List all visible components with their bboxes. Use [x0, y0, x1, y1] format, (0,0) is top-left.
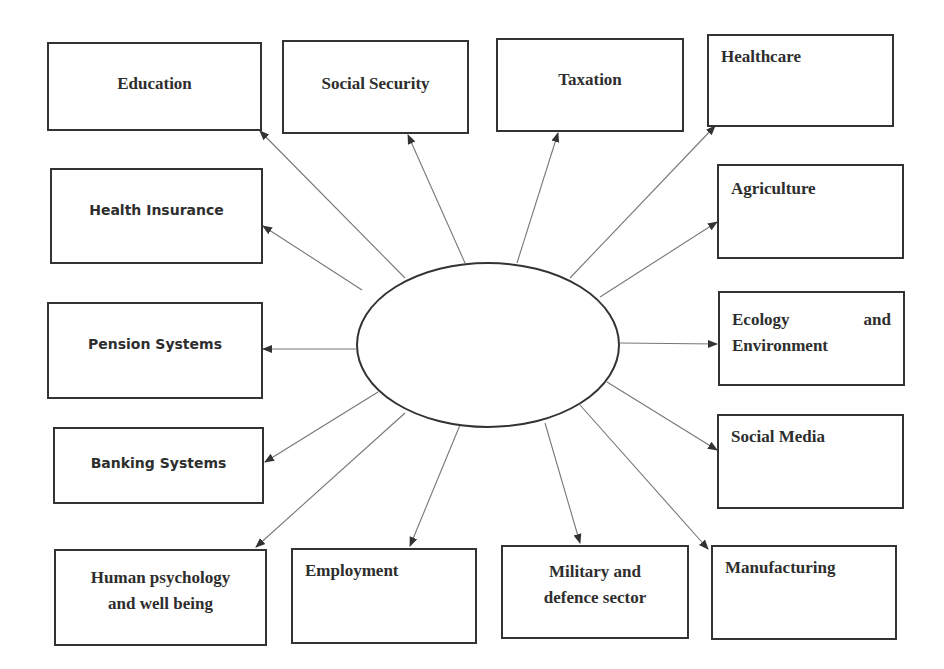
diagram-canvas: Education Social Security Taxation Healt… — [0, 0, 944, 669]
center-ellipse — [357, 263, 619, 427]
node-taxation: Taxation — [496, 38, 684, 132]
node-label-line1-left: Ecology — [732, 307, 790, 333]
node-label: Employment — [305, 558, 399, 584]
node-label: Taxation — [498, 67, 682, 93]
node-label: Banking Systems — [55, 453, 262, 473]
node-label: Human psychology and well being — [56, 565, 265, 617]
node-label-line2: and well being — [56, 591, 265, 617]
node-education: Education — [47, 42, 262, 131]
node-label-line1-right: and — [864, 307, 891, 333]
node-social-security: Social Security — [282, 40, 469, 134]
node-agriculture: Agriculture — [717, 164, 904, 259]
arrow-to-employment — [410, 425, 460, 546]
node-label: Health Insurance — [52, 200, 261, 220]
node-label-line2: defence sector — [503, 585, 687, 611]
arrow-to-taxation — [517, 133, 558, 263]
arrow-to-ecology — [620, 343, 717, 344]
node-label-line1: Military and — [503, 559, 687, 585]
node-label: Education — [49, 71, 260, 97]
node-banking-systems: Banking Systems — [53, 427, 264, 504]
node-label: Manufacturing — [725, 555, 836, 581]
node-human-psychology: Human psychology and well being — [54, 549, 267, 646]
node-label: Military and defence sector — [503, 559, 687, 611]
node-health-insurance: Health Insurance — [50, 168, 263, 264]
node-label-line1: Human psychology — [56, 565, 265, 591]
arrow-to-health-insurance — [263, 226, 362, 290]
node-employment: Employment — [291, 548, 477, 644]
node-military: Military and defence sector — [501, 545, 689, 639]
arrow-to-human-psychology — [256, 413, 405, 547]
node-social-media: Social Media — [717, 414, 904, 509]
arrow-to-banking — [265, 392, 378, 462]
node-label: Agriculture — [731, 176, 816, 202]
node-label-line2: Environment — [732, 333, 891, 359]
node-label: Healthcare — [721, 44, 801, 70]
node-pension-systems: Pension Systems — [47, 302, 263, 399]
node-healthcare: Healthcare — [707, 34, 894, 127]
arrow-to-healthcare — [570, 126, 715, 278]
arrow-to-manufacturing — [580, 405, 708, 549]
arrow-to-social-security — [408, 135, 465, 263]
node-label: Pension Systems — [49, 334, 261, 354]
node-label: Ecology and Environment — [732, 307, 891, 359]
arrow-to-education — [260, 131, 405, 278]
node-label: Social Media — [731, 424, 825, 450]
node-manufacturing: Manufacturing — [711, 545, 897, 640]
arrow-to-social-media — [607, 382, 717, 450]
arrow-to-military — [545, 423, 580, 543]
arrow-to-agriculture — [600, 222, 717, 297]
node-ecology-environment: Ecology and Environment — [718, 291, 905, 386]
node-label: Social Security — [284, 71, 467, 97]
